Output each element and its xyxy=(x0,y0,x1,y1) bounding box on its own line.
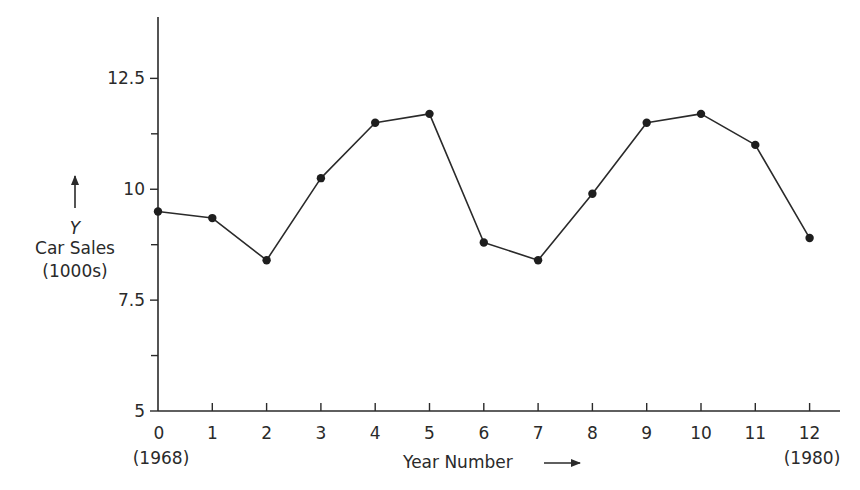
data-point xyxy=(425,110,433,118)
y-axis-title-line2: (1000s) xyxy=(42,261,107,281)
data-point xyxy=(208,214,216,222)
x-tick-label: 11 xyxy=(744,423,766,443)
car-sales-line-chart: 57.51012.5 0123456789101112 Y Car Sales … xyxy=(0,0,860,490)
x-axis-title-text: Year Number xyxy=(402,452,513,472)
y-axis-symbol: Y xyxy=(70,218,82,238)
axes xyxy=(158,17,840,411)
data-point xyxy=(588,189,596,197)
x-tick-label: 6 xyxy=(478,423,489,443)
x-axis-tick-labels: 0123456789101112 xyxy=(154,423,821,443)
x-tick-label: 4 xyxy=(370,423,381,443)
y-tick-label: 7.5 xyxy=(118,290,145,310)
y-tick-label: 10 xyxy=(123,179,145,199)
series-car-sales xyxy=(154,110,814,265)
data-point xyxy=(643,119,651,127)
x-tick-label: 10 xyxy=(690,423,712,443)
data-point xyxy=(154,207,162,215)
data-points xyxy=(154,110,814,265)
x-axis-ticks xyxy=(212,403,809,411)
data-point xyxy=(534,256,542,264)
x-tick-label: 0 xyxy=(154,423,165,443)
x-tick-label: 12 xyxy=(799,423,821,443)
y-axis-title: Y Car Sales (1000s) xyxy=(35,176,115,281)
data-point xyxy=(317,174,325,182)
data-point xyxy=(262,256,270,264)
x-tick-label: 1 xyxy=(207,423,218,443)
data-point xyxy=(751,141,759,149)
x-axis-title: Year Number (1968) (1980) xyxy=(133,448,841,472)
data-point xyxy=(371,119,379,127)
data-point xyxy=(480,238,488,246)
y-axis-ticks xyxy=(150,78,158,411)
x-tick-label: 5 xyxy=(424,423,435,443)
x-tick-label: 3 xyxy=(315,423,326,443)
x-tick-label: 7 xyxy=(533,423,544,443)
y-tick-label: 5 xyxy=(134,401,145,421)
x-end-year-annotation: (1980) xyxy=(784,448,841,468)
x-tick-label: 9 xyxy=(641,423,652,443)
data-point xyxy=(697,110,705,118)
y-tick-label: 12.5 xyxy=(107,68,145,88)
data-point xyxy=(805,234,813,242)
x-tick-label: 2 xyxy=(261,423,272,443)
x-tick-label: 8 xyxy=(587,423,598,443)
series-line xyxy=(158,114,810,260)
x-start-year-annotation: (1968) xyxy=(133,448,190,468)
y-axis-title-line1: Car Sales xyxy=(35,238,115,258)
